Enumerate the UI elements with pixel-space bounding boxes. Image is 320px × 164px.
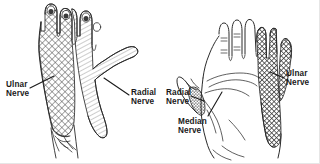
dorsal-radial-region bbox=[72, 9, 138, 138]
palmar-finger-webs bbox=[229, 53, 258, 61]
leader-line-median-right bbox=[208, 92, 222, 116]
label-median-nerve-palmar: Median Nerve bbox=[178, 117, 207, 136]
label-radial-nerve-dorsal: Radial Nerve bbox=[131, 88, 156, 107]
label-ulnar-nerve-palmar: Ulnar Nerve bbox=[286, 69, 309, 88]
palmar-creases bbox=[203, 73, 259, 160]
label-radial-nerve-palmar: Radial Nerve bbox=[166, 88, 191, 107]
hand-illustration-svg bbox=[0, 0, 320, 164]
palmar-hand-drawing bbox=[177, 19, 292, 160]
leader-line-radial-left bbox=[104, 78, 129, 95]
dorsal-hand-drawing bbox=[30, 4, 138, 158]
label-ulnar-nerve-dorsal: Ulnar Nerve bbox=[6, 80, 29, 99]
nerve-distribution-figure: Ulnar Nerve Radial Nerve Radial Nerve Me… bbox=[0, 0, 320, 164]
palmar-finger-creases bbox=[221, 34, 240, 53]
